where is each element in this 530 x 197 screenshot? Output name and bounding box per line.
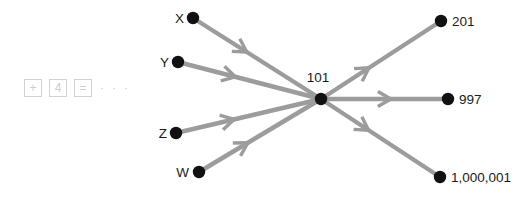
- graph-node-label: 1,000,001: [451, 170, 511, 185]
- graph-edge: [176, 99, 321, 133]
- graph-edge: [193, 18, 321, 99]
- arrowhead-icon: [354, 129, 369, 130]
- arrowhead-icon: [220, 115, 234, 119]
- graph-node[interactable]: [193, 166, 205, 178]
- graph-node-label: W: [176, 165, 189, 180]
- edge-layer: [176, 18, 448, 177]
- graph-node[interactable]: [187, 12, 199, 24]
- figure-canvas: + 4 = · · · XYZW2019971,000,001101: [0, 0, 530, 197]
- graph-node[interactable]: [172, 56, 184, 68]
- graph-node[interactable]: [170, 127, 182, 139]
- graph-edge: [199, 99, 321, 172]
- graph-node-label: 201: [452, 14, 475, 29]
- graph-node-label: Y: [160, 55, 169, 70]
- graph-edge: [321, 21, 441, 99]
- graph-node[interactable]: [442, 93, 454, 105]
- graph-edge: [178, 62, 321, 99]
- graph-node-label: X: [175, 11, 184, 26]
- graph-node-label: Z: [159, 126, 167, 141]
- graph-edge: [321, 99, 440, 177]
- graph-node[interactable]: [315, 93, 327, 105]
- arrowhead-icon: [221, 77, 235, 81]
- arrowhead-icon: [232, 51, 247, 52]
- graph-node[interactable]: [435, 15, 447, 27]
- graph-node-label: 101: [307, 70, 330, 85]
- directed-graph: XYZW2019971,000,001101: [0, 0, 530, 197]
- graph-node-label: 997: [459, 92, 482, 107]
- graph-node[interactable]: [434, 171, 446, 183]
